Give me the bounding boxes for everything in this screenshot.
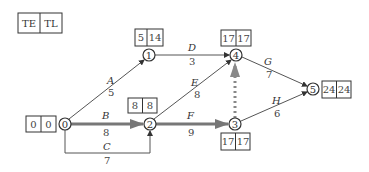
svg-text:5: 5: [310, 84, 316, 95]
svg-text:F: F: [186, 110, 195, 121]
node-2-te: 8: [132, 100, 138, 111]
legend-box: TE TL: [18, 13, 62, 33]
svg-text:D: D: [187, 42, 196, 53]
node-5: 5 24 24: [307, 81, 351, 98]
svg-text:B: B: [101, 110, 109, 121]
activity-network-diagram: TE TL A 5 B 8 C 7 D 3 E 8 F 9: [0, 0, 369, 172]
node-4: 4 17 17: [221, 30, 251, 61]
node-4-te: 17: [222, 33, 235, 44]
svg-text:9: 9: [188, 127, 194, 138]
svg-text:0: 0: [62, 119, 68, 130]
node-5-te: 24: [323, 84, 336, 95]
svg-text:2: 2: [147, 119, 153, 130]
activity-g: G 7: [242, 56, 307, 86]
svg-text:5: 5: [108, 87, 114, 98]
svg-text:G: G: [264, 56, 272, 67]
node-3-tl: 17: [237, 136, 250, 147]
svg-text:3: 3: [189, 56, 195, 67]
svg-text:1: 1: [146, 50, 152, 61]
svg-text:8: 8: [103, 127, 109, 138]
svg-text:H: H: [271, 95, 281, 106]
svg-text:8: 8: [194, 89, 200, 100]
node-0: 0 0 0: [26, 116, 71, 132]
activity-f: F 9: [156, 110, 228, 138]
svg-text:7: 7: [266, 69, 272, 80]
node-1-tl: 14: [149, 32, 162, 43]
activity-b: B 8: [71, 110, 143, 138]
activity-h: H 6: [241, 92, 307, 121]
node-0-te: 0: [30, 119, 36, 130]
node-5-tl: 24: [338, 84, 351, 95]
node-2-tl: 8: [147, 100, 153, 111]
activity-d: D 3: [155, 42, 229, 67]
node-3-te: 17: [222, 136, 235, 147]
node-0-tl: 0: [45, 119, 51, 130]
svg-text:7: 7: [104, 155, 110, 166]
svg-text:4: 4: [233, 50, 239, 61]
node-1: 1 5 14: [135, 29, 163, 61]
svg-text:A: A: [106, 75, 114, 86]
svg-text:6: 6: [274, 108, 280, 119]
node-4-tl: 17: [237, 33, 250, 44]
legend-tl: TL: [44, 18, 58, 29]
legend-te: TE: [22, 18, 36, 29]
svg-text:C: C: [103, 141, 111, 152]
svg-text:E: E: [190, 77, 199, 88]
svg-text:3: 3: [232, 119, 238, 130]
node-1-te: 5: [138, 32, 144, 43]
dummy-activity: [230, 62, 240, 118]
